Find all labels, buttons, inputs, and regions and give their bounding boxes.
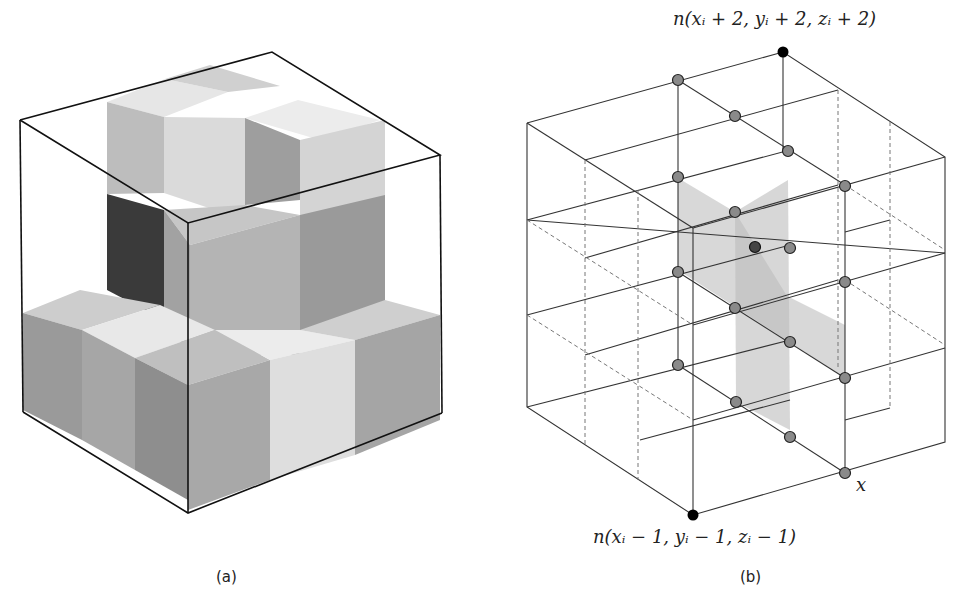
center-node xyxy=(750,242,761,253)
bottom-corner-node xyxy=(688,510,699,521)
x-axis-label: x xyxy=(856,474,866,495)
caption-a: (a) xyxy=(216,568,237,586)
caption-b: (b) xyxy=(740,568,761,586)
top-node-label: n(xᵢ + 2, yᵢ + 2, zᵢ + 2) xyxy=(673,8,876,29)
voxel-cube-figure xyxy=(23,65,440,510)
diagram-canvas xyxy=(0,0,970,607)
bottom-node-label: n(xᵢ − 1, yᵢ − 1, zᵢ − 1) xyxy=(593,526,796,547)
top-corner-node xyxy=(778,47,789,58)
grid-planes xyxy=(678,178,845,430)
